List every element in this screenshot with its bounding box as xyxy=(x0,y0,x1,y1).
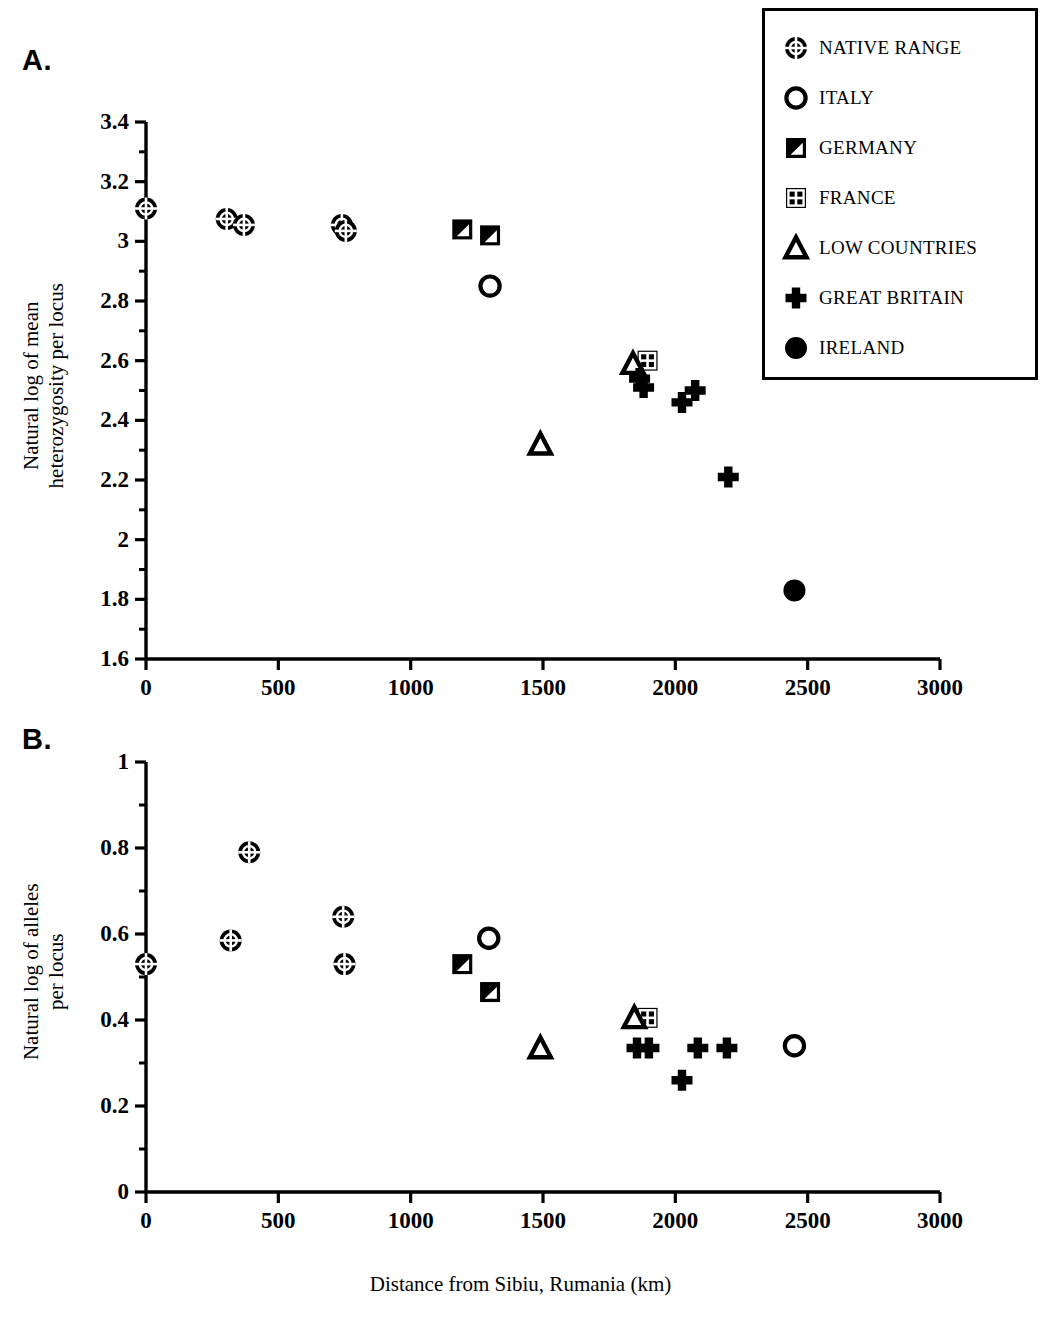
data-point-native-range xyxy=(332,906,354,928)
data-point-france xyxy=(638,1008,658,1028)
data-point-native-range xyxy=(238,841,260,863)
data-point-great-britain xyxy=(672,1070,693,1091)
x-tick-label: 0 xyxy=(140,675,152,701)
y-tick-label: 2.2 xyxy=(100,467,129,493)
x-tick-label: 500 xyxy=(261,1208,296,1234)
y-tick-label: 0.4 xyxy=(100,1007,129,1033)
panel-b-plot xyxy=(0,0,1041,1321)
y-tick-label: 0.2 xyxy=(100,1093,129,1119)
x-tick-label: 1000 xyxy=(388,1208,434,1234)
y-tick-label: 2 xyxy=(118,527,130,553)
data-point-italy xyxy=(785,1036,804,1055)
x-tick-label: 0 xyxy=(140,1208,152,1234)
axis-lines xyxy=(146,762,940,1192)
figure-root: A. B. Natural log of mean heterozygosity… xyxy=(0,0,1041,1321)
y-tick-label: 3 xyxy=(118,228,130,254)
data-point-low-countries xyxy=(530,1037,551,1057)
data-point-native-range xyxy=(220,929,242,951)
y-tick-label: 2.4 xyxy=(100,407,129,433)
y-tick-label: 3.2 xyxy=(100,169,129,195)
y-tick-label: 1 xyxy=(118,749,130,775)
x-tick-label: 1000 xyxy=(388,675,434,701)
x-tick-label: 3000 xyxy=(917,1208,963,1234)
y-tick-label: 0.8 xyxy=(100,835,129,861)
data-point-italy xyxy=(479,929,498,948)
data-point-low-countries xyxy=(624,1007,645,1027)
y-tick-label: 2.6 xyxy=(100,348,129,374)
data-point-great-britain xyxy=(627,1038,648,1059)
data-point-germany xyxy=(452,954,472,974)
data-point-great-britain xyxy=(638,1038,659,1059)
y-tick-label: 0.6 xyxy=(100,921,129,947)
x-tick-label: 1500 xyxy=(520,675,566,701)
y-tick-label: 1.8 xyxy=(100,586,129,612)
x-tick-label: 1500 xyxy=(520,1208,566,1234)
data-point-native-range xyxy=(334,953,356,975)
data-point-germany xyxy=(480,982,500,1002)
y-tick-label: 0 xyxy=(118,1179,130,1205)
x-tick-label: 2500 xyxy=(785,675,831,701)
y-tick-label: 1.6 xyxy=(100,646,129,672)
x-tick-label: 500 xyxy=(261,675,296,701)
y-tick-label: 3.4 xyxy=(100,109,129,135)
x-tick-label: 3000 xyxy=(917,675,963,701)
data-point-great-britain xyxy=(716,1038,737,1059)
data-point-great-britain xyxy=(687,1038,708,1059)
x-tick-label: 2000 xyxy=(652,675,698,701)
x-tick-label: 2500 xyxy=(785,1208,831,1234)
y-tick-label: 2.8 xyxy=(100,288,129,314)
x-tick-label: 2000 xyxy=(652,1208,698,1234)
